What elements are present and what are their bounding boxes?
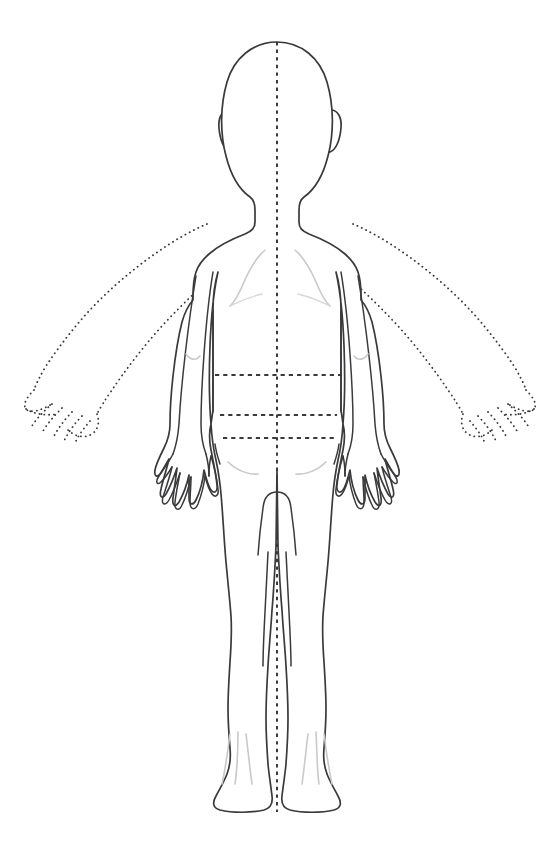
body-chart-diagram: [0, 0, 560, 861]
body-chart-svg: [0, 0, 560, 861]
